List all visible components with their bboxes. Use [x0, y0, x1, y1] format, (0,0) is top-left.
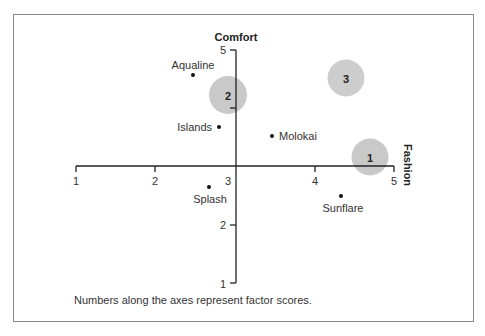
label-splash: Splash [193, 193, 227, 205]
segment-label-3: 3 [343, 73, 349, 85]
chart-caption: Numbers along the axes represent factor … [74, 294, 312, 306]
x-tick-label: 3 [225, 175, 231, 187]
point-splash [207, 185, 211, 189]
point-aqualine [191, 73, 195, 77]
y-axis-title: Comfort [215, 31, 258, 43]
x-tick-label: 5 [391, 175, 397, 187]
segment-label-2: 2 [225, 90, 231, 102]
label-sunflare: Sunflare [323, 202, 364, 214]
y-tick-label: 5 [220, 44, 226, 56]
y-tick-label: 1 [220, 278, 226, 290]
y-tick-label: 2 [220, 219, 226, 231]
perceptual-map: 1 2 3 4 5 5 2 1 Comfort Fashion 1 2 3 Aq… [0, 0, 485, 336]
x-tick-label: 4 [312, 175, 318, 187]
segment-label-1: 1 [367, 152, 373, 164]
x-axis-title: Fashion [402, 144, 414, 186]
x-tick-label: 1 [73, 175, 79, 187]
label-aqualine: Aqualine [172, 59, 215, 71]
label-molokai: Molokai [279, 130, 317, 142]
x-tick-label: 2 [152, 175, 158, 187]
point-islands [217, 125, 221, 129]
point-molokai [270, 134, 274, 138]
point-sunflare [339, 194, 343, 198]
label-islands: Islands [177, 121, 212, 133]
